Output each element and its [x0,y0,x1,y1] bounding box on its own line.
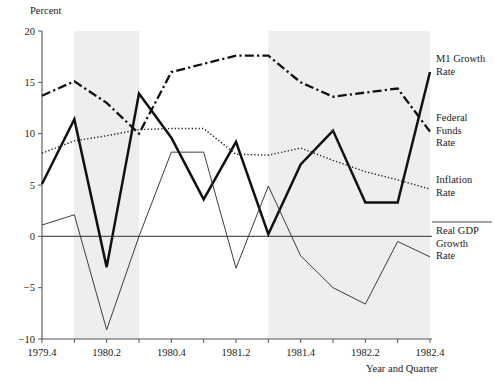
legend-label-line: Growth [436,238,469,249]
legend-label-line: Rate [436,250,456,261]
shaded-recession-band [268,31,430,339]
y-axis-tick-label: 15 [25,77,36,88]
y-axis-title: Percent [30,5,62,16]
legend-label-line: Funds [436,125,462,136]
legend-label-line: M1 Growth [436,53,486,64]
x-axis-title: Year and Quarter [366,363,438,374]
legend-label-real-gdp-growth-rate: Real GDPGrowthRate [436,225,479,261]
x-axis-tick-label: 1979.4 [28,347,58,358]
x-axis-tick-label: 1982.2 [351,347,380,358]
x-axis-tick-label: 1980.4 [157,347,187,358]
y-axis-tick-label: 10 [25,128,36,139]
legend-label-line: Rate [436,66,456,77]
y-axis-tick-label: 0 [30,231,35,242]
y-axis-tick-label: −10 [19,334,35,345]
legend-label-line: Rate [436,187,456,198]
x-axis-tick-label: 1981.2 [222,347,251,358]
chart-canvas: −10−5051015201979.41980.21980.41981.2198… [0,0,495,383]
legend-label-m1-growth-rate: M1 GrowthRate [436,53,486,77]
y-axis-tick-label: 5 [30,180,35,191]
economic-indicators-chart: −10−5051015201979.41980.21980.41981.2198… [0,0,495,383]
x-axis-tick-label: 1980.2 [92,347,121,358]
legend-label-inflation-rate: InflationRate [436,174,473,198]
legend-label-line: Inflation [436,174,473,185]
legend-label-line: Real GDP [436,225,479,236]
legend-label-line: Rate [436,137,456,148]
y-axis-tick-label: 20 [25,26,36,37]
legend-label-line: Federal [436,112,468,123]
y-axis-tick-label: −5 [24,282,35,293]
legend-label-federal-funds-rate: FederalFundsRate [436,112,468,148]
x-axis-tick-label: 1982.4 [416,347,446,358]
shaded-recession-band [74,31,139,339]
x-axis-tick-label: 1981.4 [286,347,316,358]
